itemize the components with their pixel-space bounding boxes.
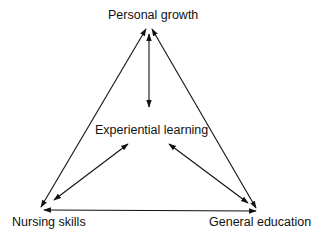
- edge-experiential-nursing: [54, 144, 128, 200]
- diagram-canvas: [0, 0, 318, 243]
- edge-personal-general: [152, 29, 256, 208]
- node-experiential-learning: Experiential learning: [95, 123, 208, 137]
- edge-nursing-general: [44, 210, 256, 211]
- node-general-education: General education: [209, 215, 311, 229]
- edge-personal-nursing: [41, 29, 146, 207]
- node-nursing-skills: Nursing skills: [12, 215, 86, 229]
- node-personal-growth: Personal growth: [108, 8, 198, 22]
